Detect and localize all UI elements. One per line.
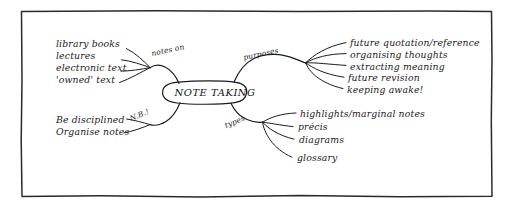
branch-notes-on: notes on library books lectures electron…	[56, 38, 185, 85]
leaf-future-revision: future revision	[347, 72, 420, 83]
leaf-library-books: library books	[56, 38, 120, 49]
leaf-organising-thoughts: organising thoughts	[350, 49, 448, 60]
leaf-organise-notes: Organise notes	[56, 126, 130, 137]
mindmap-diagram: NOTE TAKING notes on library books lectu…	[0, 0, 518, 217]
mindmap-canvas: NOTE TAKING notes on library books lectu…	[0, 0, 518, 217]
leaf-lectures: lectures	[56, 50, 95, 61]
branch-label-purposes: purposes	[243, 46, 280, 62]
center-node: NOTE TAKING	[163, 81, 256, 104]
leaf-glossary: glossary	[297, 152, 338, 163]
leaf-precis: précis	[298, 121, 328, 132]
center-node-label: NOTE TAKING	[174, 87, 256, 98]
leaf-keeping-awake: keeping awake!	[347, 84, 424, 95]
leaf-electronic-text: electronic text	[56, 62, 127, 73]
branch-label-nb: N.B.!	[127, 107, 150, 123]
leaf-highlights-marginal-notes: highlights/marginal notes	[300, 108, 425, 119]
branch-types: types highlights/marginal notes précis d…	[223, 103, 425, 163]
leaf-be-disciplined: Be disciplined	[55, 114, 125, 125]
branch-label-notes-on: notes on	[151, 42, 186, 58]
branch-purposes: purposes future quotation/reference orga…	[234, 37, 480, 95]
leaf-owned-text: 'owned' text	[56, 74, 115, 85]
leaf-future-quotation: future quotation/reference	[349, 37, 480, 48]
branch-nb: N.B.! Be disciplined Organise notes	[55, 103, 180, 137]
leaf-extracting-meaning: extracting meaning	[350, 61, 445, 72]
leaf-diagrams: diagrams	[299, 134, 344, 145]
branch-label-types: types	[223, 114, 246, 130]
